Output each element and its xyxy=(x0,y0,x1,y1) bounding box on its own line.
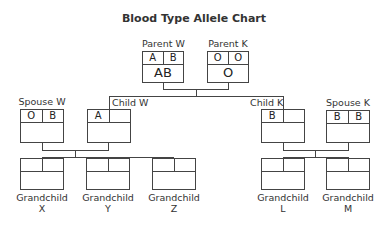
grandchild-x-label-line2: X xyxy=(12,203,72,214)
parent-w-blood-type: AB xyxy=(143,63,183,82)
child-k-label: Child K xyxy=(250,97,283,108)
connector-line xyxy=(315,150,316,157)
parent-k-label: Parent K xyxy=(207,38,249,49)
grandchild-y-label: Grandchild Y xyxy=(78,192,138,214)
spouse-w-blood-type xyxy=(21,121,63,142)
grandchild-m-label: Grandchild M xyxy=(318,192,378,214)
grandchild-m-box xyxy=(326,158,370,190)
connector-line xyxy=(75,150,76,157)
connector-line xyxy=(196,89,197,96)
grandchild-z-label: Grandchild Z xyxy=(144,192,204,214)
parent-w-label: Parent W xyxy=(142,38,184,49)
connector-line xyxy=(42,142,43,150)
grandchild-m-blood-type xyxy=(327,170,369,189)
child-k-blood-type xyxy=(262,121,304,142)
grandchild-l-label-line1: Grandchild xyxy=(253,192,313,203)
connector-line xyxy=(283,142,284,150)
chart-title: Blood Type Allele Chart xyxy=(0,12,388,25)
grandchild-x-label-line1: Grandchild xyxy=(12,192,72,203)
spouse-w-box: O B xyxy=(20,109,64,143)
child-w-blood-type xyxy=(88,121,130,142)
grandchild-l-blood-type xyxy=(262,170,304,189)
grandchild-l-label-line2: L xyxy=(253,203,313,214)
grandchild-x-blood-type xyxy=(21,170,63,189)
spouse-w-label: Spouse W xyxy=(14,96,70,107)
grandchild-z-label-line1: Grandchild xyxy=(144,192,204,203)
spouse-k-label: Spouse K xyxy=(320,97,376,108)
spouse-k-blood-type xyxy=(327,122,369,142)
spouse-k-box: B B xyxy=(326,110,370,143)
grandchild-y-label-line1: Grandchild xyxy=(78,192,138,203)
connector-line xyxy=(283,150,349,151)
grandchild-y-box xyxy=(86,158,130,190)
grandchild-y-label-line2: Y xyxy=(78,203,138,214)
connector-line xyxy=(108,142,109,150)
child-w-label: Child W xyxy=(112,97,148,108)
parent-k-box: O O O xyxy=(207,51,249,83)
grandchild-z-blood-type xyxy=(153,170,195,189)
grandchild-x-label: Grandchild X xyxy=(12,192,72,214)
grandchild-m-label-line2: M xyxy=(318,203,378,214)
connector-line xyxy=(348,142,349,150)
child-w-box: A xyxy=(87,109,131,143)
grandchild-z-box xyxy=(152,158,196,190)
child-k-box: B xyxy=(261,109,305,143)
grandchild-x-box xyxy=(20,158,64,190)
grandchild-l-label: Grandchild L xyxy=(253,192,313,214)
grandchild-y-blood-type xyxy=(87,170,129,189)
connector-line xyxy=(109,96,110,109)
grandchild-l-box xyxy=(261,158,305,190)
parent-k-blood-type: O xyxy=(208,63,248,82)
grandchild-z-label-line2: Z xyxy=(144,203,204,214)
grandchild-m-label-line1: Grandchild xyxy=(318,192,378,203)
parent-w-box: A B AB xyxy=(142,51,184,83)
